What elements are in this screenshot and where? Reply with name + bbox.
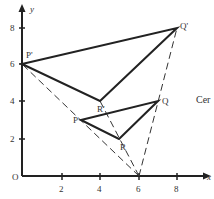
- x-axis-label: x: [206, 172, 211, 182]
- origin-label: O: [12, 172, 19, 182]
- y-tick-label: 2: [10, 134, 15, 144]
- y-tick-label: 8: [10, 23, 15, 33]
- x-tick-label: 4: [97, 184, 102, 194]
- label-r-prime: R': [97, 104, 105, 114]
- label-q-prime: Q': [180, 21, 188, 31]
- label-p: P: [73, 115, 78, 125]
- x-tick-label: 8: [174, 184, 179, 194]
- y-tick-label: 4: [10, 96, 15, 106]
- image-triangle: [22, 28, 177, 101]
- x-tick-label: 6: [136, 184, 141, 194]
- axes: [22, 10, 206, 176]
- enlargement-diagram: 2 4 6 8 2 4 6 8 O x y P' Q' R' P Q R Cer: [0, 0, 214, 199]
- label-q: Q: [162, 96, 169, 106]
- label-p-prime: P': [26, 50, 33, 60]
- label-r: R: [120, 142, 126, 152]
- x-tick-label: 2: [59, 184, 64, 194]
- y-tick-label: 6: [10, 59, 15, 69]
- side-text: Cer: [196, 94, 211, 105]
- object-triangle: [81, 101, 158, 139]
- y-axis-label: y: [29, 4, 34, 14]
- y-axis-arrow-icon: [19, 4, 26, 12]
